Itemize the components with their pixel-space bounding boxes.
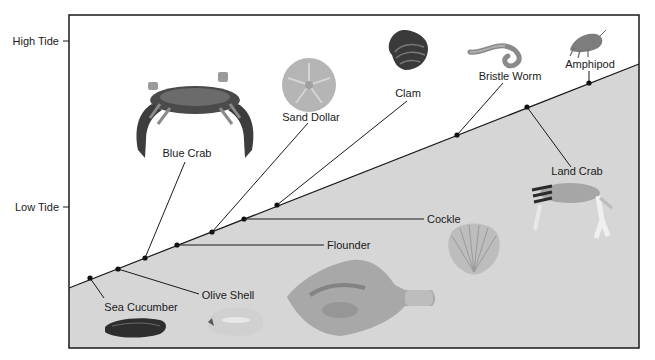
label-olive-shell: Olive Shell	[202, 289, 255, 301]
label-clam: Clam	[395, 87, 421, 99]
label-sea-cucumber: Sea Cucumber	[104, 301, 178, 313]
sand-dollar-illustration	[282, 58, 336, 112]
marker-olive-shell	[115, 266, 120, 271]
tide-zonation-diagram: High Tide Low Tide	[0, 0, 655, 360]
marker-sand-dollar	[209, 229, 214, 234]
label-flounder: Flounder	[327, 239, 371, 251]
marker-flounder	[174, 242, 179, 247]
label-blue-crab: Blue Crab	[163, 147, 212, 159]
high-tide-label: High Tide	[13, 35, 59, 47]
marker-blue-crab	[142, 255, 147, 260]
marker-clam	[274, 202, 279, 207]
marker-bristle-worm	[454, 132, 459, 137]
label-cockle: Cockle	[427, 213, 461, 225]
low-tide-label: Low Tide	[15, 201, 59, 213]
label-bristle-worm: Bristle Worm	[479, 70, 542, 82]
label-amphipod: Amphipod	[565, 58, 615, 70]
marker-land-crab	[524, 104, 529, 109]
label-sand-dollar: Sand Dollar	[282, 111, 340, 123]
marker-cockle	[241, 216, 246, 221]
marker-sea-cucumber	[87, 275, 92, 280]
label-land-crab: Land Crab	[551, 165, 602, 177]
marker-amphipod	[586, 80, 591, 85]
